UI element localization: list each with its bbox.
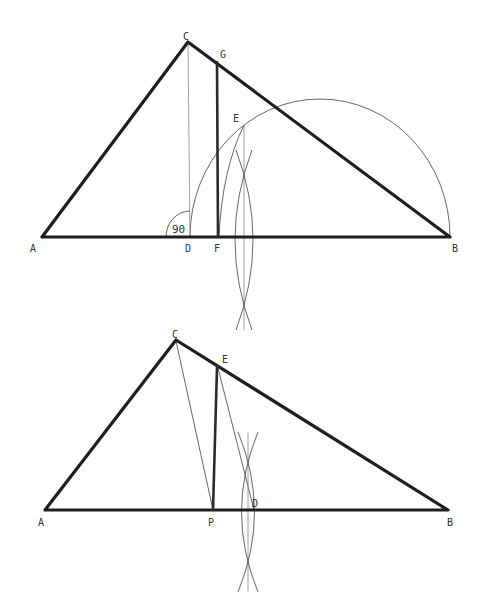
segment-fg (217, 62, 218, 237)
altitude-cd (188, 44, 190, 237)
label-c: C (183, 31, 189, 42)
geometry-diagram: A B C G E D F 90 A B C E P D (0, 0, 488, 616)
label-d: D (185, 243, 191, 254)
top-figure: A B C G E D F 90 (30, 31, 458, 330)
triangle-abc (42, 42, 450, 237)
bottom-figure: A B C E P D (38, 329, 453, 592)
line-ed (218, 368, 254, 510)
semicircle-arc (190, 99, 450, 237)
label-f: F (214, 243, 220, 254)
label-angle-90: 90 (172, 223, 185, 236)
arc-e-to-f (219, 125, 244, 237)
vesica-right-arc (236, 150, 253, 330)
label-d-bottom: D (252, 498, 258, 509)
label-a-bottom: A (38, 517, 44, 528)
label-b-bottom: B (447, 517, 453, 528)
label-p-bottom: P (208, 517, 214, 528)
label-b: B (452, 243, 458, 254)
label-g: G (220, 49, 226, 60)
vesica-left-arc-bottom (242, 432, 259, 592)
label-c-bottom: C (172, 329, 178, 340)
triangle-abc-bottom (45, 340, 448, 510)
label-e-bottom: E (222, 354, 228, 365)
segment-pe (213, 367, 217, 510)
label-a: A (30, 243, 36, 254)
vesica-left-arc (235, 150, 252, 330)
line-cp (176, 341, 213, 510)
label-e: E (233, 113, 239, 124)
